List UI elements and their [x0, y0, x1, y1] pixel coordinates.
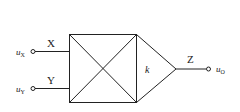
- port-z-label: Z: [187, 53, 194, 65]
- output-signal: uO: [216, 64, 226, 75]
- port-x-label: X: [47, 37, 55, 49]
- amplifier-triangle: [137, 35, 177, 103]
- input-x-terminal: [31, 50, 35, 54]
- input-y-terminal: [31, 87, 35, 91]
- input-x-signal: uX: [16, 47, 26, 58]
- input-y-signal: uY: [16, 84, 26, 95]
- port-y-label: Y: [47, 74, 55, 86]
- output-terminal: [207, 67, 211, 71]
- multiplier-diagram: X Y Z k uX uY uO: [0, 0, 240, 112]
- gain-label: k: [145, 64, 150, 75]
